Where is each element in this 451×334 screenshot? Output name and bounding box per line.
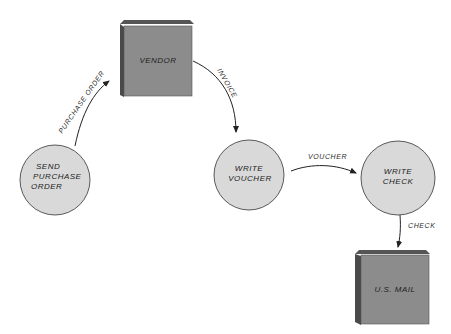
svg-text:ORDER: ORDER bbox=[31, 182, 62, 191]
flow-invoice: INVOICE bbox=[193, 61, 239, 132]
flow-purchase-order-label: PURCHASE ORDER bbox=[57, 70, 105, 135]
entity-vendor: VENDOR bbox=[120, 20, 194, 97]
svg-text:WRITE: WRITE bbox=[384, 167, 412, 176]
flow-voucher: VOUCHER bbox=[291, 153, 356, 173]
entity-us-mail-label: U.S. MAIL bbox=[375, 285, 416, 294]
flow-purchase-order: PURCHASE ORDER bbox=[57, 70, 109, 146]
data-flow-diagram: VENDOR U.S. MAIL SEND PURCHASE ORDER WRI… bbox=[0, 0, 451, 334]
flow-check-label: CHECK bbox=[408, 222, 436, 229]
flow-invoice-label: INVOICE bbox=[216, 67, 239, 99]
flow-check: CHECK bbox=[398, 215, 436, 247]
svg-text:VOUCHER: VOUCHER bbox=[228, 174, 272, 183]
process-send-purchase-order: SEND PURCHASE ORDER bbox=[20, 145, 90, 215]
process-write-voucher: WRITE VOUCHER bbox=[214, 140, 284, 210]
process-write-check: WRITE CHECK bbox=[361, 141, 435, 215]
flow-voucher-label: VOUCHER bbox=[308, 153, 347, 160]
svg-text:WRITE: WRITE bbox=[235, 164, 263, 173]
svg-text:CHECK: CHECK bbox=[383, 177, 414, 186]
svg-text:SEND: SEND bbox=[36, 162, 60, 171]
svg-text:PURCHASE: PURCHASE bbox=[33, 172, 82, 181]
entity-us-mail: U.S. MAIL bbox=[355, 250, 430, 325]
entity-vendor-label: VENDOR bbox=[139, 56, 176, 65]
